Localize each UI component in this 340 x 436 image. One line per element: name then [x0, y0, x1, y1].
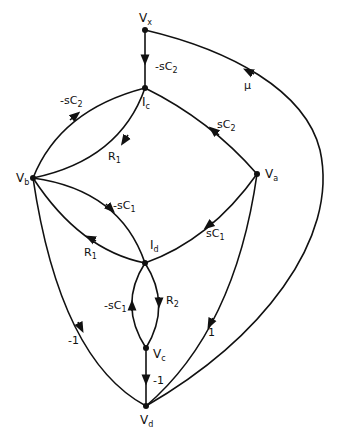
gain-vd-vx: μ — [244, 79, 251, 92]
node-va — [254, 171, 260, 177]
edge-va-vd — [146, 174, 257, 406]
label-va: Va — [265, 167, 278, 183]
gain-id-vb: R1 — [84, 246, 97, 261]
edge-vd-vx — [145, 30, 323, 406]
label-vb: Vb — [16, 171, 29, 187]
node-vb — [30, 175, 36, 181]
gain-va-ic: sC2 — [217, 118, 236, 133]
node-vx — [142, 27, 148, 33]
node-ic — [142, 85, 148, 91]
edge-va-ic — [145, 88, 257, 174]
gain-ic-vb: R1 — [108, 150, 121, 165]
signal-flow-graph: Vx Ic Vb Va Id Vc Vd -sC2 -sC2 R1 sC2 -s… — [0, 0, 340, 436]
label-ic: Ic — [142, 95, 150, 111]
label-id: Id — [150, 238, 159, 254]
gain-vc-vd: -1 — [153, 374, 164, 387]
node-vc — [143, 345, 149, 351]
gain-va-id: sC1 — [206, 227, 225, 242]
gain-id-vc: R2 — [166, 294, 179, 309]
node-vd — [143, 403, 149, 409]
label-vc: Vc — [153, 347, 166, 363]
node-id — [142, 260, 148, 266]
edge-vb-vd — [33, 178, 146, 406]
label-vx: Vx — [139, 11, 152, 27]
gain-vb-ic: -sC2 — [60, 94, 82, 109]
gain-vc-id: -sC1 — [104, 299, 126, 314]
gain-vx-ic: -sC2 — [155, 60, 177, 75]
edge-ic-vb — [33, 88, 145, 178]
edge-va-id — [145, 174, 257, 263]
gain-va-vd: 1 — [208, 326, 215, 339]
edge-vb-ic — [33, 88, 145, 178]
edge-vc-id — [132, 263, 146, 348]
edge-id-vc — [145, 263, 159, 348]
gain-vb-id: -sC1 — [113, 199, 135, 214]
label-vd: Vd — [140, 413, 153, 429]
gain-vb-vd: -1 — [68, 334, 79, 347]
